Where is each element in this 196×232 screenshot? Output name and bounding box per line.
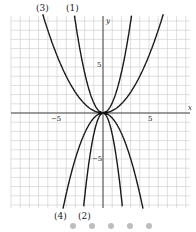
x-tick-pos5: 5 (148, 115, 152, 123)
page-dot[interactable] (127, 223, 133, 229)
y-tick-neg5: −5 (92, 155, 102, 163)
curve-label-4: (4) (54, 211, 67, 221)
curve-label-1: (1) (66, 3, 79, 13)
page-dot[interactable] (70, 223, 76, 229)
page-dot[interactable] (89, 223, 95, 229)
y-tick-pos5: 5 (97, 61, 101, 69)
y-axis-label: y (106, 17, 110, 25)
x-axis-label: x (188, 104, 192, 112)
pagination-dots (70, 223, 152, 229)
x-tick-neg5: −5 (51, 115, 61, 123)
page-dot[interactable] (108, 223, 114, 229)
curve-label-3: (3) (36, 3, 49, 13)
parabola-chart (0, 0, 196, 232)
page-dot[interactable] (146, 223, 152, 229)
curve-label-2: (2) (78, 211, 91, 221)
